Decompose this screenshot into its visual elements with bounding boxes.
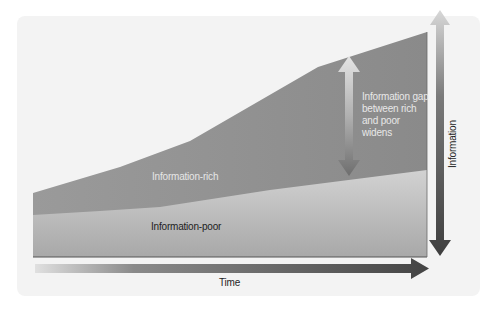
information-axis-label: Information	[447, 120, 459, 168]
time-axis-label: Time	[219, 277, 240, 289]
gap-annotation-label: Information gap between rich and poor wi…	[362, 91, 432, 139]
information-rich-label: Information-rich	[152, 171, 218, 183]
time-axis-arrow-icon	[35, 258, 429, 279]
information-poor-label: Information-poor	[151, 221, 221, 233]
information-gap-diagram	[0, 0, 499, 309]
